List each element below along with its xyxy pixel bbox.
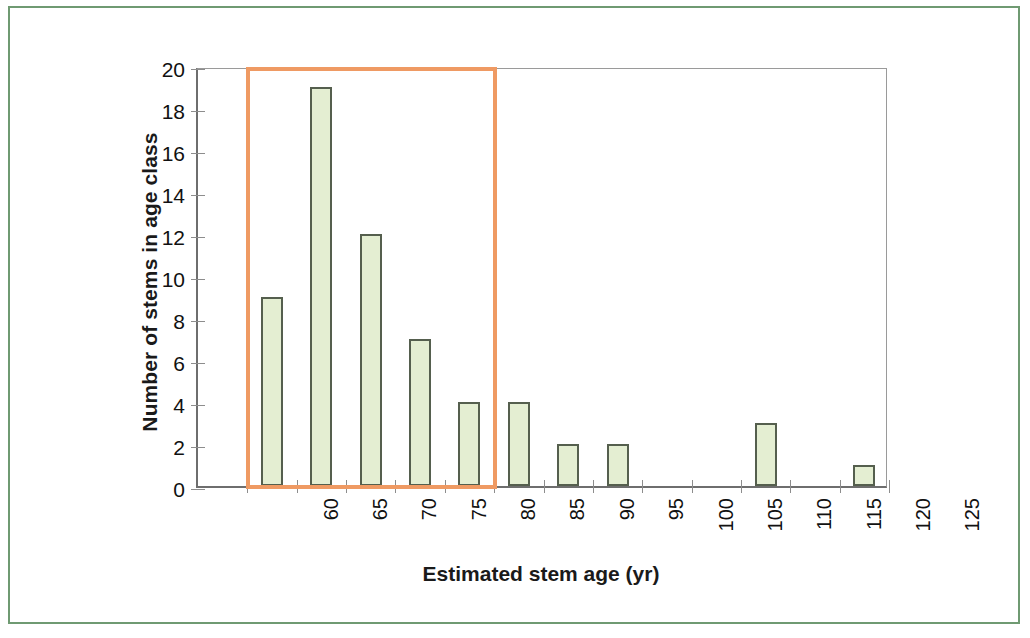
x-axis-tick [642,480,643,493]
y-axis-tick-label: 10 [125,269,185,290]
x-axis-tick-label: 120 [913,498,933,588]
x-axis-tick-label: 75 [469,498,489,588]
bar-115 [755,423,777,486]
bar-100 [607,444,629,486]
x-axis-tick-label: 125 [962,498,982,588]
y-axis-tick-label: 0 [125,479,185,500]
bar-90 [508,402,530,486]
y-axis-tick [191,237,205,238]
bar-75 [360,234,382,486]
x-axis-tick-label: 70 [419,498,439,588]
x-axis-tick [889,480,890,493]
y-axis-tick [191,363,205,364]
y-axis-tick [191,321,205,322]
x-axis-tick-label: 100 [716,498,736,588]
y-axis-tick-label: 2 [125,437,185,458]
x-axis-tick [692,480,693,493]
y-axis-tick-label: 8 [125,311,185,332]
x-axis-tick-label: 90 [617,498,637,588]
x-axis-tick-label: 80 [518,498,538,588]
x-axis-tick-label: 115 [864,498,884,588]
x-axis-tick [297,480,298,493]
x-axis-tick [247,480,248,493]
histogram-figure: Number of stems in age class Estimated s… [0,0,1030,638]
y-axis-tick [191,447,205,448]
x-axis-tick-label: 85 [567,498,587,588]
bar-95 [557,444,579,486]
y-axis-tick-label: 18 [125,101,185,122]
x-axis-tick [544,480,545,493]
x-axis-tick [593,480,594,493]
x-axis-tick [395,480,396,493]
y-axis-tick [191,195,205,196]
bar-125 [853,465,875,486]
y-axis-tick-label: 20 [125,59,185,80]
y-axis-tick [191,111,205,112]
x-axis-tick [840,480,841,493]
plot-area: 02468101214161820 [196,68,887,488]
y-axis-tick [191,489,205,490]
bar-65 [261,297,283,486]
y-axis-tick-label: 14 [125,185,185,206]
y-axis-tick-label: 12 [125,227,185,248]
x-axis-tick [494,480,495,493]
x-axis-tick [790,480,791,493]
x-axis-tick [445,480,446,493]
bar-70 [310,87,332,486]
y-axis-tick [191,69,205,70]
y-axis-tick-label: 4 [125,395,185,416]
x-axis-tick-label: 60 [321,498,341,588]
x-axis-tick-label: 110 [814,498,834,588]
y-axis-tick-label: 16 [125,143,185,164]
x-axis-tick [346,480,347,493]
x-axis-tick [741,480,742,493]
bar-80 [409,339,431,486]
bar-85 [458,402,480,486]
x-axis-tick-label: 65 [370,498,390,588]
y-axis-tick [191,405,205,406]
y-axis-tick [191,153,205,154]
x-axis-tick-label: 105 [765,498,785,588]
y-axis-tick-label: 6 [125,353,185,374]
y-axis-tick [191,279,205,280]
x-axis-tick-label: 95 [666,498,686,588]
